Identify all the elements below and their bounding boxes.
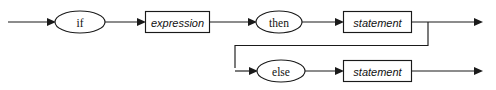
syntax-diagram-canvas: if expression then statement else statem… — [0, 0, 496, 90]
node-else[interactable]: else — [257, 60, 305, 82]
arrow-right-icon-exit-bottom — [474, 67, 483, 75]
node-statement-then[interactable]: statement — [344, 12, 412, 33]
node-if[interactable]: if — [55, 11, 105, 33]
arrow-right-icon-statement-then — [335, 18, 344, 26]
node-statement-else[interactable]: statement — [344, 61, 412, 82]
node-label-then: then — [269, 17, 289, 29]
node-label-else: else — [272, 66, 290, 78]
node-expression[interactable]: expression — [146, 12, 210, 33]
node-label-expression: expression — [151, 17, 204, 29]
arrow-right-icon-statement-else — [335, 67, 344, 75]
railroad-diagram: if expression then statement else statem… — [0, 0, 496, 90]
node-label-statement-else: statement — [353, 66, 402, 78]
node-label-if: if — [76, 17, 83, 29]
node-then[interactable]: then — [256, 11, 302, 33]
arrow-right-icon-expression — [137, 18, 146, 26]
arrow-right-icon-exit-top — [474, 18, 483, 26]
node-label-statement-then: statement — [353, 17, 402, 29]
